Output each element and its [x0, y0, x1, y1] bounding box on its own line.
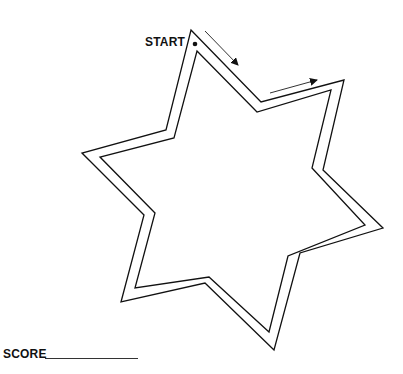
- direction-arrow-icon: [270, 80, 317, 93]
- star-maze: [0, 0, 403, 374]
- star-inner-border: [100, 51, 365, 332]
- score-label: SCORE: [3, 347, 47, 361]
- score-input-line[interactable]: [45, 358, 138, 359]
- direction-arrow-icon: [205, 31, 238, 65]
- start-label: START: [145, 35, 185, 49]
- star-outer-border: [82, 30, 383, 350]
- start-dot[interactable]: [193, 42, 198, 47]
